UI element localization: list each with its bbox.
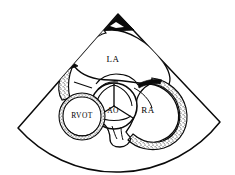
aorto-rvot-fold — [74, 82, 92, 88]
apex-near-field-artifact — [104, 15, 134, 31]
left-atrium-chamber — [70, 30, 170, 86]
label-left-atrium: LA — [107, 54, 120, 64]
label-right-ventricular-outflow-tract: RVOT — [71, 111, 92, 120]
label-aorta: AO — [107, 106, 119, 115]
channel-right-border — [121, 127, 123, 140]
echo-sector-drawing: LA AO RVOT RA — [0, 0, 235, 175]
echocardiogram-figure: LA AO RVOT RA — [0, 0, 235, 175]
apex-artifact-group — [104, 15, 134, 31]
label-right-atrium: RA — [141, 105, 154, 115]
